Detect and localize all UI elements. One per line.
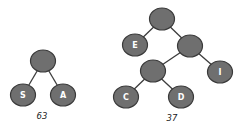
- tree-1: SA63: [11, 50, 76, 121]
- node-label: I: [219, 68, 222, 77]
- tree-node-internal: [141, 60, 166, 82]
- tree-node-internal: [150, 8, 175, 30]
- tree-node-a: A: [51, 84, 76, 106]
- tree-caption: 37: [167, 113, 178, 123]
- node-label: D: [178, 93, 185, 102]
- tree-2: EICD37: [114, 8, 233, 123]
- node-circle: [141, 60, 166, 82]
- tree-node-e: E: [123, 34, 148, 56]
- tree-diagram: SA63EICD37: [0, 0, 241, 130]
- node-label: C: [123, 93, 129, 102]
- tree-node-s: S: [11, 84, 36, 106]
- node-label: S: [20, 91, 26, 100]
- tree-caption: 63: [37, 111, 48, 121]
- node-label: E: [132, 41, 137, 50]
- node-label: A: [60, 91, 67, 100]
- tree-node-internal: [31, 50, 56, 72]
- tree-node-i: I: [208, 61, 233, 83]
- node-circle: [150, 8, 175, 30]
- tree-node-internal: [178, 35, 203, 57]
- tree-node-d: D: [169, 86, 194, 108]
- node-circle: [178, 35, 203, 57]
- tree-node-c: C: [114, 86, 139, 108]
- node-circle: [31, 50, 56, 72]
